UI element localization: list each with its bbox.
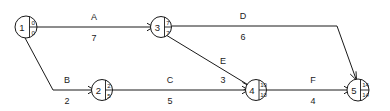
node-4-earliest-time: 10 [260, 82, 267, 88]
edge-group-D: D 6 [172, 11, 357, 80]
edge-group-F: F 4 [267, 75, 351, 106]
activity-duration-F: 4 [310, 96, 315, 106]
network-svg: A 7 D 6 E 3 B 2 C 5 [0, 0, 390, 111]
activity-label-A: A [91, 12, 97, 22]
activity-label-D: D [240, 11, 247, 21]
node-2-earliest-time: 2 [107, 82, 111, 89]
node-4[interactable]: 4 10 10 [246, 80, 268, 101]
activity-label-F: F [310, 75, 316, 85]
edge-group-C: C 5 [112, 75, 249, 106]
edge-line-B [24, 36, 94, 90]
edge-group-E: E 3 [166, 35, 251, 90]
node-5-id: 5 [351, 85, 356, 96]
node-3-latest-time: 7 [166, 29, 170, 36]
activity-duration-A: 7 [91, 33, 96, 43]
node-1-earliest-time: 0 [31, 19, 35, 26]
node-5-earliest-time: 14 [362, 82, 369, 88]
activity-label-B: B [64, 75, 70, 85]
activity-label-C: C [167, 75, 174, 85]
node-3[interactable]: 3 7 7 [151, 17, 172, 38]
node-3-earliest-time: 7 [166, 19, 170, 26]
activity-duration-C: 5 [167, 96, 172, 106]
activity-duration-E: 3 [220, 75, 225, 85]
activity-duration-B: 2 [64, 96, 69, 106]
activity-label-E: E [220, 56, 226, 66]
edge-group-A: A 7 [37, 12, 154, 43]
network-diagram-canvas: A 7 D 6 E 3 B 2 C 5 [0, 0, 390, 111]
node-1-id: 1 [19, 22, 24, 33]
node-2[interactable]: 2 2 5 [92, 80, 113, 101]
node-1-latest-time: 0 [31, 29, 35, 36]
node-2-id: 2 [96, 85, 101, 96]
edge-line-D [172, 26, 356, 79]
node-3-id: 3 [155, 22, 160, 33]
node-5[interactable]: 5 14 14 [347, 79, 369, 101]
node-5-latest-time: 14 [362, 92, 369, 98]
edge-line-E [166, 35, 250, 86]
node-1[interactable]: 1 0 0 [15, 16, 37, 38]
node-2-latest-time: 5 [107, 92, 111, 99]
edge-group-B: B 2 [24, 36, 95, 106]
node-4-id: 4 [249, 85, 254, 96]
activity-duration-D: 6 [240, 32, 245, 42]
node-4-latest-time: 10 [260, 92, 267, 98]
